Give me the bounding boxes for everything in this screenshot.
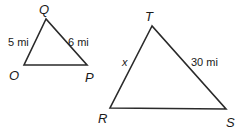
vertex-label-p: P	[85, 70, 94, 85]
vertex-label-q: Q	[39, 2, 49, 17]
side-label-qp: 6 mi	[68, 36, 89, 48]
side-label-rt: x	[121, 56, 128, 68]
vertex-label-s: S	[226, 115, 235, 130]
triangle-oqp: Q O P 5 mi 6 mi	[8, 2, 94, 85]
side-label-oq: 5 mi	[8, 36, 29, 48]
similar-triangles-diagram: Q O P 5 mi 6 mi T R S x 30 mi	[0, 0, 241, 132]
triangle-rts: T R S x 30 mi	[98, 9, 235, 130]
side-label-ts: 30 mi	[191, 56, 218, 68]
vertex-label-t: T	[145, 9, 154, 24]
vertex-label-r: R	[98, 111, 107, 126]
vertex-label-o: O	[9, 68, 19, 83]
